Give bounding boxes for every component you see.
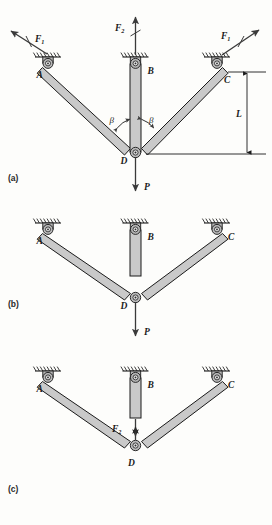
label-L: L	[235, 109, 242, 119]
panel-label-a: (a)	[8, 173, 19, 183]
panel-a: β β A B C D F1	[8, 17, 266, 192]
support-C-panel-c	[202, 367, 230, 383]
force-F1-at-A: F1	[11, 31, 47, 54]
panel-b: A B C D P (b)	[8, 219, 235, 337]
label-P-panel-a: P	[144, 182, 150, 192]
link-BD-panel-a	[130, 64, 141, 152]
force-F1-at-C: F1	[220, 30, 259, 55]
label-D-panel-a: D	[120, 156, 128, 166]
support-A-panel-b	[33, 219, 61, 235]
label-P-panel-b: P	[144, 327, 150, 337]
link-CD-panel-a	[142, 68, 229, 156]
label-B-panel-c: B	[147, 380, 154, 390]
support-A-panel-c	[33, 367, 61, 383]
link-AD-panel-c	[37, 382, 130, 449]
angle-beta-left-label: β	[109, 115, 115, 125]
link-CD-panel-c	[142, 382, 229, 449]
label-F1-at-C: F1	[220, 31, 230, 42]
label-D-panel-c: D	[127, 458, 135, 468]
panel-c: A B C D F2 (c)	[8, 367, 235, 494]
label-F2-at-B: F2	[114, 23, 124, 34]
label-A-panel-c: A	[36, 384, 43, 394]
panel-label-c: (c)	[8, 484, 19, 494]
angle-beta-right: β	[141, 115, 154, 129]
force-F2-at-B: F2	[114, 17, 141, 55]
joint-D-panel-a	[130, 147, 140, 157]
joint-D-panel-b	[130, 292, 140, 302]
support-B-panel-c	[121, 367, 149, 383]
support-C-panel-a	[202, 53, 230, 69]
figure-root: β β A B C D F1	[0, 0, 272, 525]
label-D-panel-b: D	[120, 301, 128, 311]
support-B-panel-b	[121, 219, 149, 235]
label-C-panel-b: C	[228, 232, 235, 242]
link-AD-panel-b	[37, 234, 130, 301]
label-B-panel-a: B	[147, 66, 154, 76]
label-A-panel-a: A	[36, 70, 43, 80]
link-AD-panel-a	[37, 68, 130, 156]
link-BD-stub-panel-b	[130, 230, 141, 276]
link-CD-panel-b	[142, 234, 229, 301]
label-B-panel-b: B	[147, 232, 154, 242]
angle-beta-left: β	[109, 115, 130, 129]
force-P-at-D-panel-a: P	[136, 157, 151, 192]
label-C-panel-c: C	[228, 380, 235, 390]
joint-D-panel-c	[130, 440, 140, 450]
force-P-at-D-panel-b: P	[136, 302, 151, 337]
label-F1-at-A: F1	[34, 34, 44, 45]
support-A-panel-a	[33, 53, 61, 69]
label-A-panel-b: A	[36, 236, 43, 246]
support-B-panel-a	[121, 53, 149, 69]
panel-label-b: (b)	[8, 299, 19, 309]
label-F2-panel-c: F2	[111, 424, 121, 435]
link-BD-stub-panel-c	[130, 378, 141, 418]
angle-beta-right-label: β	[148, 115, 154, 125]
support-C-panel-b	[202, 219, 230, 235]
label-C-panel-a: C	[224, 75, 231, 85]
